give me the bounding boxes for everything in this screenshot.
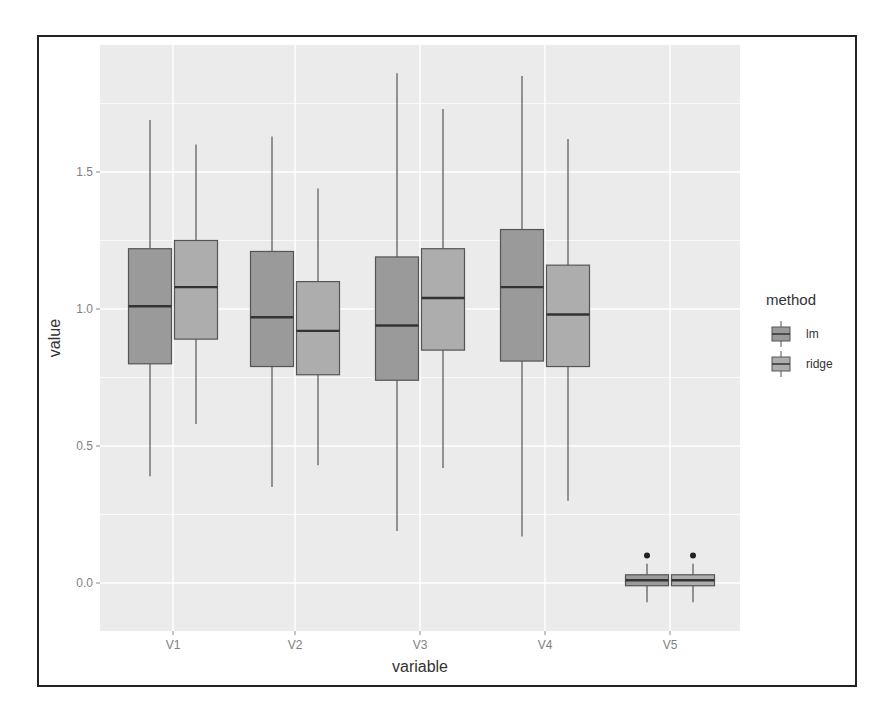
x-axis-title: variable [392,658,448,675]
legend-title: method [766,291,816,308]
x-tick-label: V5 [663,638,678,652]
y-tick-label: 0.0 [76,576,93,590]
x-tick-label: V2 [288,638,303,652]
x-tick-label: V3 [413,638,428,652]
x-tick-label: V1 [166,638,181,652]
y-tick-label: 1.0 [76,302,93,316]
y-tick-label: 1.5 [76,165,93,179]
legend-item-ridge: ridge [772,351,833,377]
outlier-point [690,553,696,559]
x-axis: V1V2V3V4V5 [166,631,678,652]
legend-label: ridge [806,357,833,371]
y-axis-title: value [46,319,63,357]
legend: method lmridge [766,291,833,377]
legend-label: lm [806,327,819,341]
legend-item-lm: lm [772,321,819,347]
x-tick-label: V4 [538,638,553,652]
y-tick-label: 0.5 [76,439,93,453]
boxplot-chart: 0.00.51.01.5 V1V2V3V4V5 value variable m… [0,0,894,719]
y-axis: 0.00.51.01.5 [76,165,100,590]
outlier-point [644,553,650,559]
